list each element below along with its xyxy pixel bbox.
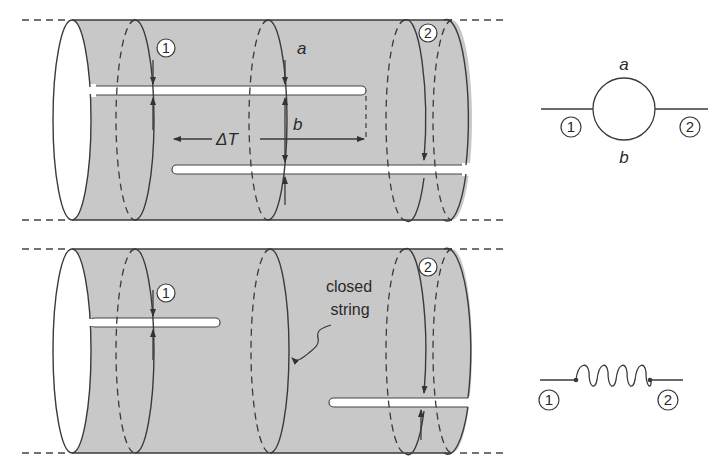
delta-t-label: ΔT <box>215 130 239 149</box>
propagator-state-1: 1 <box>545 391 553 408</box>
loop-label-a: a <box>619 55 628 74</box>
loop-state-1: 1 <box>567 118 575 135</box>
closed-string-label-line2: string <box>330 301 369 318</box>
loop-feynman-diagram: a b 1 2 <box>541 55 708 167</box>
boundary-a-label: a <box>297 39 306 58</box>
svg-text:2: 2 <box>424 25 432 41</box>
string-diagram-figure: 1 2 a b ΔT a b 1 2 <box>0 0 718 469</box>
state-1-marker-bottom: 1 <box>157 284 175 302</box>
state-2-marker-bottom: 2 <box>419 258 437 276</box>
top-cylinder: 1 2 a b ΔT <box>22 19 505 221</box>
svg-text:1: 1 <box>162 40 170 56</box>
state-1-marker-top: 1 <box>157 39 175 57</box>
bottom-cylinder: 1 2 closed string <box>22 248 505 454</box>
closed-string-label-line1: closed <box>326 278 372 295</box>
propagator-state-2: 2 <box>664 391 672 408</box>
boundary-b-label: b <box>293 115 302 134</box>
state-2-marker-top: 2 <box>419 24 437 42</box>
loop-state-2: 2 <box>686 118 694 135</box>
svg-text:2: 2 <box>424 259 432 275</box>
propagator-feynman-diagram: 1 2 <box>539 365 683 410</box>
svg-text:1: 1 <box>162 285 170 301</box>
loop-label-b: b <box>619 148 628 167</box>
